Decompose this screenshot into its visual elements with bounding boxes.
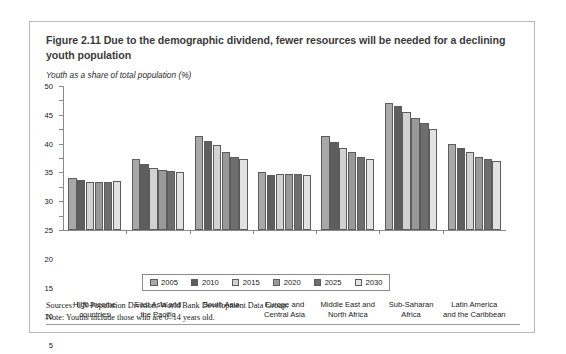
bar-group — [132, 86, 185, 230]
bar-2015 — [339, 148, 347, 230]
y-tick-label: 5 — [49, 341, 53, 350]
bar-2030 — [429, 129, 437, 230]
bar-group — [68, 86, 121, 230]
y-tick: 25 — [59, 158, 63, 159]
bar-group — [448, 86, 501, 230]
bar-2020 — [411, 118, 419, 230]
legend-label: 2020 — [284, 278, 301, 287]
legend-swatch-icon — [314, 279, 322, 286]
bar-2010 — [77, 180, 85, 230]
legend-swatch-icon — [150, 279, 158, 286]
bar-2025 — [104, 182, 112, 230]
legend-swatch-icon — [355, 279, 363, 286]
bar-2030 — [176, 172, 184, 230]
y-tick: 50 — [59, 86, 63, 87]
x-tick — [316, 230, 317, 234]
bar-2020 — [222, 152, 230, 230]
y-tick-label: 40 — [45, 139, 53, 148]
y-tick-label: 45 — [45, 110, 53, 119]
bar-2015 — [213, 145, 221, 230]
legend-item-2015[interactable]: 2015 — [232, 278, 260, 287]
figure-title: Figure 2.11 Due to the demographic divid… — [46, 33, 520, 62]
legend-item-2005[interactable]: 2005 — [150, 278, 178, 287]
bar-2010 — [140, 164, 148, 230]
bar-2030 — [239, 159, 247, 230]
figure-card: Figure 2.11 Due to the demographic divid… — [29, 21, 535, 333]
legend-swatch-icon — [273, 279, 281, 286]
bar-2005 — [68, 178, 76, 230]
bar-2030 — [113, 181, 121, 230]
y-tick-label: 35 — [45, 168, 53, 177]
bar-2015 — [86, 182, 94, 230]
legend-item-2010[interactable]: 2010 — [191, 278, 219, 287]
x-axis-line — [63, 230, 506, 231]
legend-label: 2010 — [202, 278, 219, 287]
bar-2005 — [321, 136, 329, 230]
bar-2010 — [330, 142, 338, 230]
y-tick: 10 — [59, 201, 63, 202]
sources-line: Sources: UN Population Division; World B… — [46, 300, 520, 312]
bar-2020 — [285, 174, 293, 230]
legend-label: 2030 — [366, 278, 383, 287]
x-tick — [379, 230, 380, 234]
bar-2010 — [394, 106, 402, 230]
y-tick: 30 — [59, 144, 63, 145]
bar-2010 — [204, 141, 212, 230]
y-tick: 20 — [59, 172, 63, 173]
bar-2030 — [366, 159, 374, 230]
y-tick: 35 — [59, 129, 63, 130]
bar-2025 — [167, 171, 175, 230]
bar-2015 — [402, 112, 410, 230]
y-tick: 5 — [59, 216, 63, 217]
bar-2015 — [276, 174, 284, 230]
bar-2005 — [385, 103, 393, 230]
bottom-divider — [46, 324, 520, 325]
x-tick — [253, 230, 254, 234]
bar-2025 — [230, 157, 238, 230]
y-tick-label: 50 — [45, 82, 53, 91]
bar-2020 — [348, 152, 356, 230]
legend-swatch-icon — [232, 279, 240, 286]
x-tick — [443, 230, 444, 234]
legend-label: 2015 — [243, 278, 260, 287]
x-tick — [190, 230, 191, 234]
bar-group — [258, 86, 311, 230]
note-line: Note: Youths include those who are 0–14 … — [46, 312, 520, 324]
bar-2010 — [457, 148, 465, 230]
legend-label: 2025 — [325, 278, 342, 287]
bar-group — [195, 86, 248, 230]
bar-2015 — [466, 152, 474, 230]
legend-swatch-icon — [191, 279, 199, 286]
bar-2005 — [132, 159, 140, 230]
bar-2005 — [258, 172, 266, 230]
y-axis-unit-label: Youth as a share of total population (%) — [46, 70, 191, 80]
y-tick-label: 20 — [45, 254, 53, 263]
y-tick: 15 — [59, 187, 63, 188]
bar-2030 — [303, 175, 311, 230]
bar-2030 — [492, 161, 500, 230]
legend-item-2025[interactable]: 2025 — [314, 278, 342, 287]
chart-plot-area: 05101520253035404550 High-income countri… — [63, 86, 506, 230]
bar-2020 — [158, 170, 166, 230]
y-axis-line — [63, 86, 64, 230]
y-tick: 0 — [59, 230, 63, 231]
bar-2020 — [475, 157, 483, 230]
legend-item-2020[interactable]: 2020 — [273, 278, 301, 287]
y-tick-label: 30 — [45, 197, 53, 206]
y-tick-label: 15 — [45, 283, 53, 292]
bar-group — [385, 86, 438, 230]
y-tick: 40 — [59, 115, 63, 116]
bar-2010 — [267, 175, 275, 230]
bar-2025 — [357, 157, 365, 230]
bar-2005 — [195, 136, 203, 230]
x-tick — [126, 230, 127, 234]
bar-2025 — [294, 174, 302, 230]
bar-group — [321, 86, 374, 230]
y-tick-label: 25 — [45, 226, 53, 235]
legend-item-2030[interactable]: 2030 — [355, 278, 383, 287]
bar-2025 — [420, 123, 428, 230]
bar-2015 — [149, 168, 157, 230]
figure-notes: Sources: UN Population Division; World B… — [46, 300, 520, 325]
bar-2020 — [95, 182, 103, 230]
chart-legend: 200520102015202020252030 — [142, 274, 390, 291]
